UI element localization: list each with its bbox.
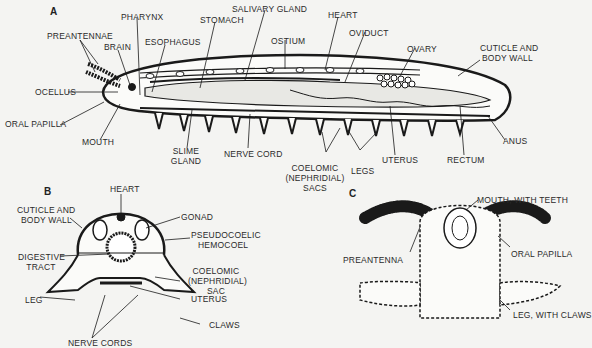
label-b-coelomic-1: COELOMIC (188, 266, 244, 276)
label-b-gonad: GONAD (181, 212, 213, 222)
label-b-cuticle-2: BODY WALL (21, 215, 72, 225)
label-coelomic-sacs-1: COELOMIC (285, 163, 345, 173)
label-c-oral-papilla: ORAL PAPILLA (511, 249, 572, 259)
label-esophagus: ESOPHAGUS (145, 37, 201, 47)
label-c-preantenna: PREANTENNA (343, 255, 403, 265)
label-b-digestive-1: DIGESTIVE (18, 252, 64, 262)
label-oral-papilla: ORAL PAPILLA (5, 119, 66, 129)
label-nerve-cord: NERVE CORD (224, 149, 283, 159)
label-b-leg: LEG (25, 295, 43, 305)
label-rectum: RECTUM (447, 155, 485, 165)
label-c-leg: LEG, WITH CLAWS (513, 310, 592, 320)
label-preantennae: PREANTENNAE (47, 31, 113, 41)
label-ocellus: OCELLUS (35, 87, 76, 97)
label-cuticle-a-2: BODY WALL (482, 53, 533, 63)
label-mouth: MOUTH (82, 137, 114, 147)
label-stomach: STOMACH (200, 15, 244, 25)
panel-label-c: C (349, 188, 356, 199)
label-cuticle-a-1: CUTICLE AND (480, 43, 538, 53)
label-b-uterus: UTERUS (191, 294, 227, 304)
label-ovary: OVARY (407, 44, 437, 54)
label-b-digestive-2: TRACT (18, 262, 64, 272)
label-b-pseudocoel-1: PSEUDOCOELIC (191, 230, 261, 240)
label-b-coelomic-2: (NEPHRIDIAL) (188, 276, 244, 286)
label-coelomic-sacs-2: (NEPHRIDIAL) (285, 173, 345, 183)
panel-label-a: A (50, 6, 57, 17)
label-b-nerve-cords: NERVE CORDS (68, 338, 132, 348)
label-oviduct: OVIDUCT (349, 28, 389, 38)
label-b-pseudocoel-2: HEMOCOEL (198, 240, 248, 250)
panel-a-body (60, 10, 510, 155)
label-uterus: UTERUS (382, 155, 418, 165)
label-b-cuticle-1: CUTICLE AND (17, 205, 75, 215)
label-salivary-gland: SALIVARY GLAND (232, 4, 307, 14)
label-heart: HEART (328, 10, 358, 20)
label-pharynx: PHARYNX (121, 12, 163, 22)
label-coelomic-sacs-3: SACS (285, 183, 345, 193)
label-c-mouth: MOUTH, WITH TEETH (477, 195, 568, 205)
label-b-claws: CLAWS (209, 320, 240, 330)
label-legs: LEGS (351, 166, 374, 176)
label-ostium: OSTIUM (271, 36, 305, 46)
panel-label-b: B (44, 186, 51, 197)
label-b-heart: HEART (110, 184, 140, 194)
label-slime-gland-2: GLAND (170, 156, 202, 166)
label-brain: BRAIN (104, 42, 131, 52)
label-slime-gland-1: SLIME (170, 146, 202, 156)
label-anus: ANUS (503, 136, 527, 146)
